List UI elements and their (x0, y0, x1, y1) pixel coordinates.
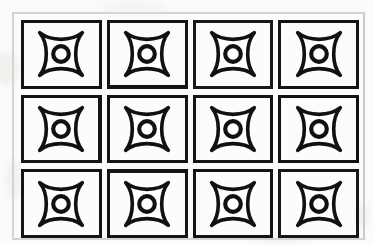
star-tile-r1c4[interactable] (278, 20, 359, 89)
star-tile-grid (21, 20, 359, 238)
four-pointed-star-icon (35, 28, 87, 80)
four-pointed-star-icon (35, 178, 87, 230)
four-pointed-star-icon (293, 103, 345, 155)
paper-smudge (100, 2, 170, 12)
four-pointed-star-icon (207, 103, 259, 155)
scanned-page (0, 0, 373, 245)
star-tile-r3c2[interactable] (107, 169, 188, 238)
star-tile-r2c4[interactable] (278, 95, 359, 164)
star-tile-r2c2[interactable] (107, 95, 188, 164)
four-pointed-star-icon (293, 178, 345, 230)
four-pointed-star-icon (121, 103, 173, 155)
four-pointed-star-icon (207, 178, 259, 230)
star-tile-r3c3[interactable] (193, 169, 274, 238)
star-tile-r3c4[interactable] (278, 169, 359, 238)
four-pointed-star-icon (207, 28, 259, 80)
four-pointed-star-icon (121, 178, 173, 230)
star-tile-r2c1[interactable] (21, 95, 102, 164)
star-tile-r3c1[interactable] (21, 169, 102, 238)
star-tile-r2c3[interactable] (193, 95, 274, 164)
star-tile-r1c1[interactable] (21, 20, 102, 89)
four-pointed-star-icon (35, 103, 87, 155)
star-tile-r1c2[interactable] (107, 20, 188, 89)
four-pointed-star-icon (121, 28, 173, 80)
star-tile-r1c3[interactable] (193, 20, 274, 89)
four-pointed-star-icon (293, 28, 345, 80)
